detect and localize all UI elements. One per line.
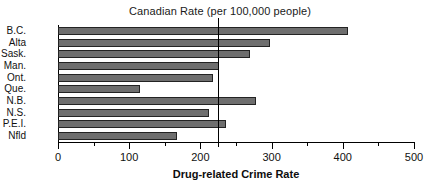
x-axis-title: Drug-related Crime Rate — [58, 168, 414, 180]
x-tick-400 — [343, 143, 344, 149]
category-label-n-b: N.B. — [7, 96, 26, 106]
bar-alta[interactable] — [58, 39, 270, 47]
bar-row — [58, 120, 414, 128]
bar-nfld[interactable] — [58, 132, 177, 140]
x-tick-label-100: 100 — [109, 151, 149, 163]
bar-sask[interactable] — [58, 50, 250, 58]
bar-row — [58, 50, 414, 58]
bar-row — [58, 85, 414, 93]
x-tick-200 — [200, 143, 201, 149]
bar-row — [58, 39, 414, 47]
x-tick-label-300: 300 — [252, 151, 292, 163]
x-minor-tick-250 — [236, 143, 237, 146]
x-tick-label-500: 500 — [394, 151, 434, 163]
category-label-p-e-i: P.E.I. — [3, 119, 26, 129]
category-label-n-s: N.S. — [7, 108, 26, 118]
category-label-nfld: Nfld — [8, 131, 26, 141]
x-minor-tick-350 — [307, 143, 308, 146]
x-tick-100 — [129, 143, 130, 149]
x-tick-500 — [414, 143, 415, 149]
canadian-rate-reference-line — [218, 18, 219, 147]
bar-p-e-i[interactable] — [58, 120, 226, 128]
bar-b-c[interactable] — [58, 27, 348, 35]
x-minor-tick-50 — [94, 143, 95, 146]
category-label-que: Que. — [4, 84, 26, 94]
x-minor-tick-150 — [165, 143, 166, 146]
x-tick-300 — [272, 143, 273, 149]
category-label-b-c: B.C. — [7, 26, 26, 36]
bar-row — [58, 97, 414, 105]
x-tick-label-200: 200 — [180, 151, 220, 163]
bar-man[interactable] — [58, 62, 219, 70]
bar-row — [58, 74, 414, 82]
bar-row — [58, 27, 414, 35]
category-label-sask: Sask. — [1, 49, 26, 59]
x-minor-tick-450 — [378, 143, 379, 146]
bar-ont[interactable] — [58, 74, 213, 82]
category-label-man: Man. — [4, 61, 26, 71]
drug-related-crime-rate-bar-chart: Canadian Rate (per 100,000 people) B.C.A… — [0, 0, 440, 190]
bar-n-b[interactable] — [58, 97, 256, 105]
category-label-alta: Alta — [9, 38, 26, 48]
chart-title: Canadian Rate (per 100,000 people) — [0, 5, 440, 17]
bar-row — [58, 109, 414, 117]
x-tick-label-400: 400 — [323, 151, 363, 163]
bar-row — [58, 62, 414, 70]
bar-row — [58, 132, 414, 140]
bar-n-s[interactable] — [58, 109, 209, 117]
x-tick-0 — [58, 143, 59, 149]
bar-que[interactable] — [58, 85, 140, 93]
x-tick-label-0: 0 — [38, 151, 78, 163]
category-label-ont: Ont. — [7, 73, 26, 83]
